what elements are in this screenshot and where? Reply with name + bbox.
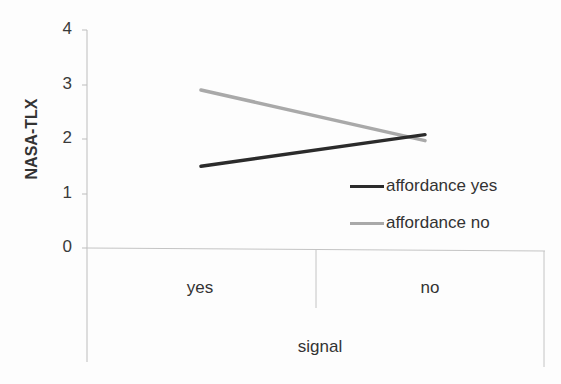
y-tick-label: 1 (52, 183, 72, 203)
y-tick-label: 4 (52, 19, 72, 39)
y-tick-label: 2 (52, 128, 72, 148)
x-axis-title: signal (270, 337, 370, 357)
legend-label: affordance yes (386, 176, 497, 196)
legend-label: affordance no (386, 213, 490, 233)
legend-item-affordance-yes: affordance yes (350, 176, 497, 196)
y-tick-label: 0 (52, 237, 72, 257)
y-tick-label: 3 (52, 74, 72, 94)
legend-item-affordance-no: affordance no (350, 213, 490, 233)
x-category-label: yes (160, 278, 240, 298)
legend-swatch-icon (350, 222, 384, 225)
x-category-label: no (390, 278, 470, 298)
y-axis-title: NASA-TLX (23, 99, 41, 180)
series-line-affordance-no (201, 90, 425, 141)
legend-swatch-icon (350, 185, 384, 188)
series-line-affordance-yes (201, 135, 425, 167)
